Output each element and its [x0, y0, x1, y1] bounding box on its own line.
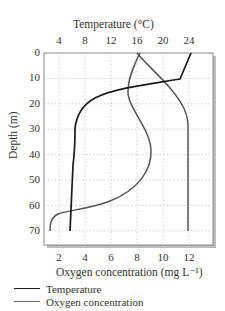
bottom-tick: 8 — [125, 251, 149, 263]
bottom-axis-title: Oxygen concentration (mg L⁻¹) — [56, 265, 203, 279]
legend: Temperature Oxygen concentration — [14, 282, 143, 308]
bottom-tick: 2 — [47, 251, 71, 263]
legend-item-oxygen: Oxygen concentration — [14, 295, 143, 308]
legend-swatch-temperature — [14, 288, 40, 289]
bottom-tick: 6 — [99, 251, 123, 263]
bottom-tick: 4 — [73, 251, 97, 263]
legend-swatch-oxygen — [14, 301, 40, 302]
legend-item-temperature: Temperature — [14, 282, 143, 295]
bottom-tick: 12 — [177, 251, 201, 263]
bottom-tick: 10 — [151, 251, 175, 263]
legend-label: Oxygen concentration — [46, 296, 143, 308]
legend-label: Temperature — [46, 283, 101, 295]
